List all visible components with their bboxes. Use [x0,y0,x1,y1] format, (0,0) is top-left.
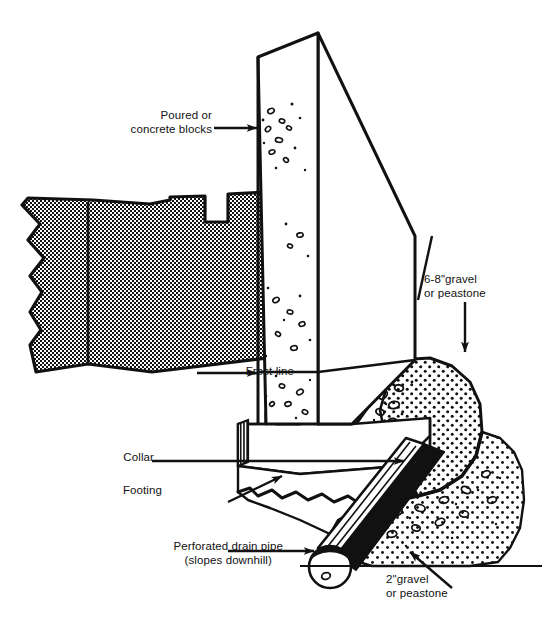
soil-mass [22,192,268,372]
label-frost-line: Frost line [246,364,294,378]
label-gravel-6-8: 6-8"gravel or peastone [424,272,486,300]
diagram-canvas: Poured or concrete blocks Frost line Col… [0,0,542,634]
label-footing: Footing [123,483,162,497]
label-perforated-drain-pipe: Perforated drain pipe (slopes downhill) [173,539,283,567]
label-gravel-2: 2"gravel or peastone [386,572,448,600]
label-collar: Collar [123,450,154,464]
label-poured-or-concrete-blocks: Poured or concrete blocks [131,108,212,136]
drawing-ink [22,33,542,588]
